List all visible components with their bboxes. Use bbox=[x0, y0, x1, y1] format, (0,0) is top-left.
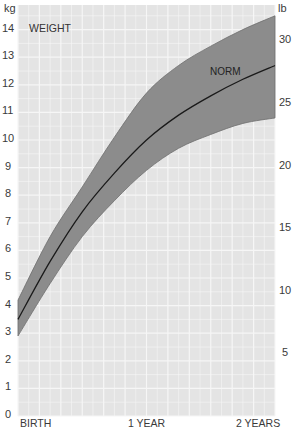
lb-tick-15: 15 bbox=[279, 221, 291, 233]
weight-chart bbox=[0, 0, 296, 431]
kg-tick-8: 8 bbox=[5, 187, 17, 199]
kg-tick-7: 7 bbox=[5, 215, 17, 227]
lb-unit-label: lb bbox=[278, 2, 287, 14]
kg-tick-6: 6 bbox=[5, 242, 17, 254]
kg-unit-label: kg bbox=[4, 2, 16, 14]
kg-tick-10: 10 bbox=[2, 132, 14, 144]
x-label-1-year: 1 YEAR bbox=[128, 417, 165, 429]
x-label-2-years: 2 YEARS bbox=[236, 417, 280, 429]
lb-tick-5: 5 bbox=[282, 346, 288, 358]
lb-tick-25: 25 bbox=[279, 96, 291, 108]
norm-label: NORM bbox=[210, 66, 241, 77]
kg-tick-14: 14 bbox=[2, 22, 14, 34]
x-label-birth: BIRTH bbox=[20, 417, 51, 429]
chart-title: WEIGHT bbox=[29, 22, 71, 34]
kg-tick-0: 0 bbox=[5, 408, 17, 420]
kg-tick-13: 13 bbox=[2, 49, 14, 61]
lb-tick-30: 30 bbox=[279, 33, 291, 45]
kg-tick-5: 5 bbox=[5, 270, 17, 282]
kg-tick-12: 12 bbox=[2, 77, 14, 89]
kg-tick-1: 1 bbox=[5, 380, 17, 392]
lb-tick-10: 10 bbox=[279, 284, 291, 296]
kg-tick-3: 3 bbox=[5, 325, 17, 337]
kg-tick-4: 4 bbox=[5, 298, 17, 310]
lb-tick-20: 20 bbox=[279, 159, 291, 171]
kg-tick-11: 11 bbox=[2, 104, 14, 116]
kg-tick-2: 2 bbox=[5, 353, 17, 365]
kg-tick-9: 9 bbox=[5, 160, 17, 172]
